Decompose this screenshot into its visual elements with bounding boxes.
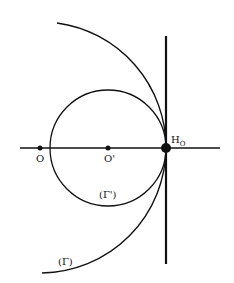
point-H: [161, 143, 171, 153]
label-O: O: [36, 153, 44, 164]
label-gamma: (Γ): [58, 256, 73, 267]
label-H: HO: [171, 134, 186, 148]
label-gamma-prime: (Γ'): [99, 189, 117, 200]
point-O: [38, 146, 43, 151]
geometry-diagram: O O' HO (Γ') (Γ): [0, 0, 234, 283]
point-O-prime: [106, 146, 111, 151]
label-O-prime: O': [104, 153, 115, 164]
